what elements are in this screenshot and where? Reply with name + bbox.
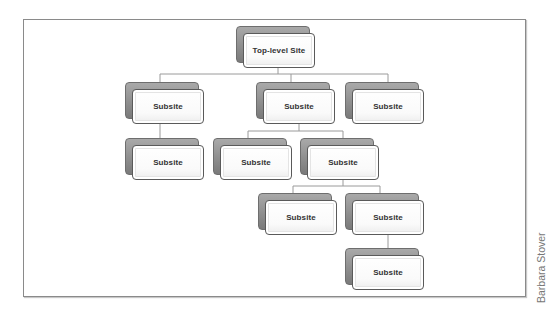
node-box: Subsite	[307, 145, 379, 180]
node-box: Subsite	[220, 145, 292, 180]
node-label: Top-level Site	[253, 46, 306, 55]
node-box: Subsite	[132, 145, 204, 180]
node-label: Subsite	[328, 158, 358, 167]
node-subsite: Subsite	[265, 200, 337, 235]
photo-credit: Barbara Stover	[535, 232, 547, 303]
node-subsite: Subsite	[307, 145, 379, 180]
node-subsite: Subsite	[352, 200, 424, 235]
node-label: Subsite	[153, 158, 183, 167]
node-box: Subsite	[265, 200, 337, 235]
node-subsite: Subsite	[352, 255, 424, 290]
node-top-level-site: Top-level Site	[243, 33, 315, 68]
node-subsite: Subsite	[220, 145, 292, 180]
node-subsite: Subsite	[352, 89, 424, 124]
node-label: Subsite	[373, 268, 403, 277]
node-box: Top-level Site	[243, 33, 315, 68]
node-label: Subsite	[373, 213, 403, 222]
node-subsite: Subsite	[263, 89, 335, 124]
node-box: Subsite	[352, 200, 424, 235]
node-label: Subsite	[373, 102, 403, 111]
node-box: Subsite	[352, 255, 424, 290]
node-box: Subsite	[263, 89, 335, 124]
node-label: Subsite	[284, 102, 314, 111]
node-label: Subsite	[286, 213, 316, 222]
node-label: Subsite	[153, 102, 183, 111]
node-box: Subsite	[132, 89, 204, 124]
node-subsite: Subsite	[132, 145, 204, 180]
node-box: Subsite	[352, 89, 424, 124]
node-subsite: Subsite	[132, 89, 204, 124]
node-label: Subsite	[241, 158, 271, 167]
